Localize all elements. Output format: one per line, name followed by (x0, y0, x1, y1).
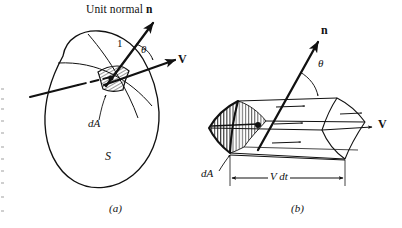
surface-point-marker-b (255, 122, 261, 128)
unit-normal-vector-b (258, 42, 318, 150)
label-length-vdt: V dt (268, 171, 290, 182)
panel-a-graphics (30, 15, 175, 188)
area-element-leader-b (219, 155, 230, 171)
panel-label-b: (b) (291, 203, 304, 214)
panel-label-a: (a) (109, 203, 122, 214)
flow-arrow-2 (274, 123, 303, 124)
label-area-element-a: dA (88, 118, 100, 129)
figure-flux-through-area: Unit normal n 1 θ V dA S (a) n θ V dA V … (0, 0, 402, 228)
label-theta-b: θ (318, 58, 323, 69)
theta-arc-b (300, 72, 318, 96)
label-velocity-a: V (178, 53, 187, 65)
label-unit-length-a: 1 (117, 38, 123, 49)
label-normal-b: n (321, 24, 328, 36)
panel-b-graphics (209, 42, 372, 186)
area-element-leader-a (99, 95, 106, 120)
flow-arrow-5 (322, 127, 372, 130)
prism-edge-mid (266, 121, 365, 122)
caption-unit-normal: Unit normal n (86, 4, 152, 16)
surface-point-marker-a (108, 75, 113, 80)
prism-edge-bottom (244, 147, 358, 150)
figure-linework (0, 0, 402, 228)
label-area-element-b: dA (201, 168, 213, 179)
flow-arrow-1 (276, 106, 305, 107)
flow-arrow-3 (272, 142, 301, 143)
streamline-solid-segment (30, 85, 78, 97)
label-surface-a: S (105, 150, 111, 162)
label-theta-a: θ (141, 44, 146, 55)
label-velocity-b: V (378, 118, 387, 130)
